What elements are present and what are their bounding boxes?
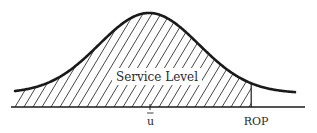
hatch-line [312, 7, 317, 107]
hatch-line [0, 7, 12, 107]
hatch-line [87, 7, 147, 107]
hatch-line [51, 7, 111, 107]
mean-label: u [147, 115, 154, 128]
hatch-line [303, 7, 317, 107]
hatch-line [33, 7, 93, 107]
hatch-line [69, 7, 129, 107]
service-level-diagram: Service Level u ROP [0, 0, 317, 133]
rop-label: ROP [244, 115, 269, 128]
hatch-line [294, 7, 317, 107]
hatch-line [168, 7, 228, 107]
hatch-line [24, 7, 84, 107]
hatch-line [42, 7, 102, 107]
hatch-line [105, 7, 165, 107]
hatch-line [150, 7, 210, 107]
region-label: Service Level [116, 70, 198, 84]
hatch-line [132, 7, 192, 107]
hatch-region [0, 7, 317, 107]
hatch-line [0, 7, 57, 107]
hatch-line [159, 7, 219, 107]
hatch-line [15, 7, 75, 107]
hatch-line [186, 7, 246, 107]
hatch-line [60, 7, 120, 107]
hatch-line [195, 7, 255, 107]
hatch-line [249, 7, 309, 107]
hatch-line [177, 7, 237, 107]
hatch-line [141, 7, 201, 107]
hatch-line [213, 7, 273, 107]
hatch-line [222, 7, 282, 107]
hatch-line [0, 7, 3, 107]
hatch-line [0, 7, 21, 107]
